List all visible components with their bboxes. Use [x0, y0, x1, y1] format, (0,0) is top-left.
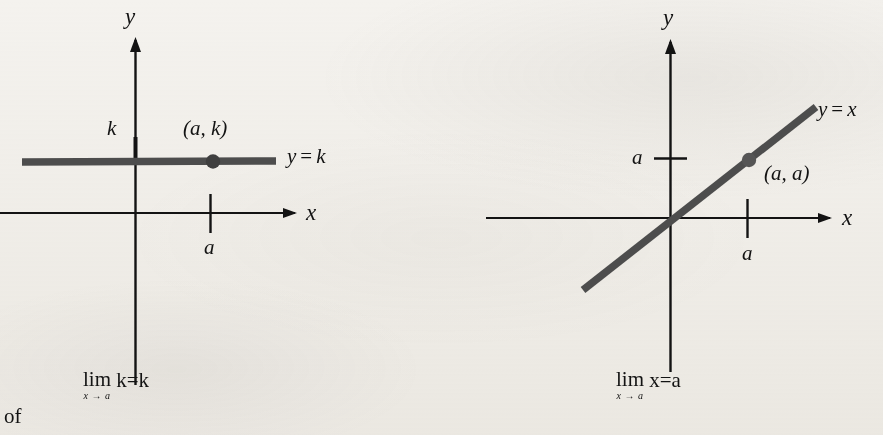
limit-expression-identity: lim x → a x=a: [616, 369, 681, 403]
x-axis-label: x: [842, 206, 852, 229]
curve-label-y-equals-x: y=x: [818, 99, 857, 120]
x-axis: [486, 213, 832, 223]
limit-subscript: x → a: [616, 391, 644, 401]
y-tick-label-k: k: [107, 118, 116, 139]
limit-sub-arrow: →: [91, 390, 102, 401]
point-label-a-k: (a, k): [183, 118, 227, 139]
limit-value: a: [672, 368, 681, 392]
y-tick-label-a: a: [632, 147, 643, 168]
limit-lim-text: lim: [616, 369, 644, 390]
x-axis-label: x: [306, 201, 316, 224]
y-axis: [130, 37, 141, 385]
y-axis: [665, 39, 676, 372]
x-axis: [0, 208, 297, 218]
panel-identity-function-limit: y x a a (a, a) y=x lim x → a x=a: [441, 0, 883, 435]
limit-operator: lim x → a: [83, 369, 111, 401]
limit-lim-text: lim: [83, 369, 111, 390]
limit-sub-arrow: →: [624, 390, 635, 401]
curve-label-y-equals-k: y=k: [287, 146, 326, 167]
stray-page-text: of: [4, 404, 22, 429]
limit-body: x: [649, 368, 660, 392]
point-a-k: [206, 154, 220, 168]
panel-constant-function-limit: y x k a (a, k) y=k lim x → a k=k of: [0, 0, 441, 435]
limit-operator: lim x → a: [616, 369, 644, 401]
graph-constant-function: [0, 0, 441, 435]
point-label-a-a: (a, a): [764, 163, 810, 184]
x-tick-label-a: a: [204, 237, 215, 258]
curve-label-var: y: [818, 97, 827, 121]
limit-laws-figure: y x k a (a, k) y=k lim x → a k=k of: [0, 0, 883, 435]
curve-y-equals-x: [583, 107, 816, 290]
limit-equals: =: [660, 368, 672, 392]
x-tick-label-a: a: [742, 243, 753, 264]
limit-sub-var: x: [84, 390, 89, 401]
curve-label-var: y: [287, 144, 296, 168]
curve-label-op: =: [296, 144, 316, 168]
limit-sub-var: x: [617, 390, 622, 401]
limit-equals: =: [127, 368, 139, 392]
y-axis-label: y: [663, 6, 673, 29]
curve-label-value: x: [847, 97, 856, 121]
curve-label-value: k: [316, 144, 325, 168]
y-axis-label: y: [125, 5, 135, 28]
limit-body: k: [116, 368, 127, 392]
limit-sub-target: a: [638, 390, 644, 401]
limit-body-wrap: x=a: [644, 369, 681, 391]
limit-expression-constant: lim x → a k=k: [83, 369, 149, 403]
curve-y-equals-k: [22, 161, 276, 162]
limit-sub-target: a: [105, 390, 111, 401]
point-a-a: [742, 153, 756, 167]
curve-label-op: =: [827, 97, 847, 121]
limit-value: k: [139, 368, 150, 392]
limit-subscript: x → a: [83, 391, 111, 401]
limit-body-wrap: k=k: [111, 369, 149, 391]
